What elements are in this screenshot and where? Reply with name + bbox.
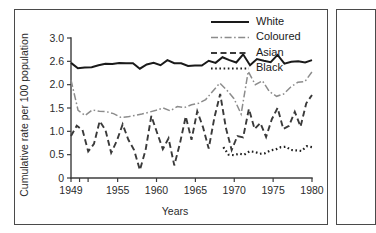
y-tick-label: 1.5 (49, 102, 64, 114)
x-tick-label: 1960 (145, 184, 169, 196)
y-tick-label: 0 (58, 172, 64, 184)
x-tick-label: 1955 (106, 184, 130, 196)
y-tick-label: 2.0 (49, 78, 64, 90)
x-tick-label: 1970 (223, 184, 247, 196)
x-axis-ticks: 1949195519601965197019751980 (59, 178, 324, 196)
y-axis-ticks: 00.51.01.52.02.63.0 (49, 32, 71, 184)
chart-panel: Cumulative rate per 100 population Years… (14, 9, 328, 225)
legend-label-coloured: Coloured (256, 30, 301, 42)
x-tick-label: 1949 (59, 184, 83, 196)
line-chart: Cumulative rate per 100 population Years… (15, 10, 326, 223)
legend-label-black: Black (256, 61, 283, 73)
chart-legend: WhiteColouredAsianBlack (211, 15, 301, 74)
x-tick-label: 1980 (300, 184, 324, 196)
legend-label-asian: Asian (256, 46, 284, 58)
y-tick-label: 2.6 (49, 55, 64, 67)
legend-label-white: White (256, 15, 284, 27)
adjacent-panel (336, 9, 376, 225)
x-tick-label: 1975 (261, 184, 285, 196)
y-axis-title: Cumulative rate per 100 population (18, 33, 30, 197)
y-tick-label: 0.5 (49, 148, 64, 160)
x-tick-label: 1965 (184, 184, 208, 196)
x-axis-title: Years (162, 205, 188, 217)
y-tick-label: 1.0 (49, 125, 64, 137)
y-tick-label: 3.0 (49, 32, 64, 44)
series-line-black (223, 146, 312, 155)
